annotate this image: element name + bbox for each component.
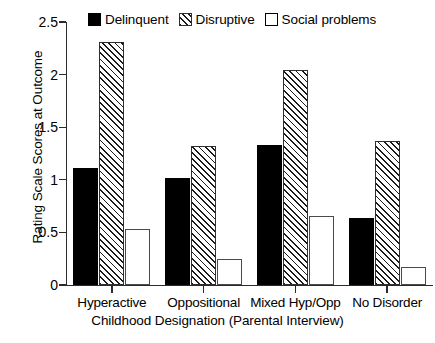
x-tick-mark [203,286,204,293]
bar-delinquent-mixed-hyp-opp [257,145,282,285]
bar-delinquent-oppositional [165,178,190,285]
legend-label-social-problems: Social problems [282,13,377,26]
x-tick-mark [295,286,296,293]
y-tick-mark [59,284,66,285]
bar-disruptive-oppositional [191,146,216,285]
x-tick-mark [386,286,387,293]
x-tick-label-no-disorder: No Disorder [327,296,435,310]
legend-swatch-delinquent-icon [88,13,101,26]
bar-social-problems-mixed-hyp-opp [309,216,334,285]
y-axis-line [66,22,67,286]
cropped-title-remnant [150,0,350,7]
y-tick-mark [59,179,66,180]
x-axis-line [66,285,433,286]
legend-item-social-problems: Social problems [265,13,377,26]
bar-disruptive-mixed-hyp-opp [283,70,308,285]
y-tick-mark [59,127,66,128]
bar-social-problems-hyperactive [125,229,150,285]
chart-legend: Delinquent Disruptive Social problems [88,13,386,26]
y-tick-mark [59,21,66,22]
bar-chart-figure: Delinquent Disruptive Social problems 00… [0,0,435,343]
bar-disruptive-no-disorder [375,141,400,285]
y-tick-mark [59,74,66,75]
y-tick-label: 2.5 [18,15,58,29]
bar-social-problems-oppositional [217,259,242,285]
bar-social-problems-no-disorder [401,267,426,285]
legend-swatch-social-problems-icon [265,13,278,26]
legend-label-disruptive: Disruptive [196,13,255,26]
x-axis-title: Childhood Designation (Parental Intervie… [0,314,435,328]
bar-delinquent-hyperactive [73,168,98,285]
y-tick-mark [59,232,66,233]
bar-delinquent-no-disorder [349,218,374,285]
legend-swatch-disruptive-icon [179,13,192,26]
legend-item-disruptive: Disruptive [179,13,255,26]
legend-label-delinquent: Delinquent [105,13,169,26]
x-tick-mark [111,286,112,293]
legend-item-delinquent: Delinquent [88,13,169,26]
y-axis-title: Rating Scale Scores at Outcome [31,32,45,262]
bar-disruptive-hyperactive [99,42,124,285]
y-tick-label: 0 [18,278,58,292]
